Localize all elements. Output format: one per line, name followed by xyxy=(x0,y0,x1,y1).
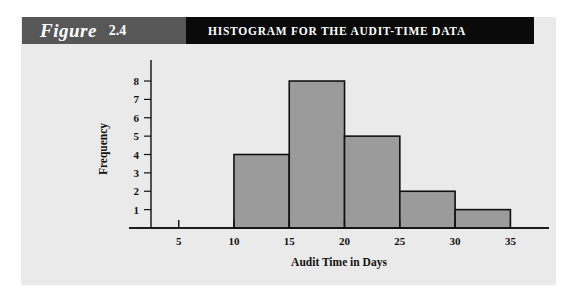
x-axis-tick-label: 35 xyxy=(505,235,516,247)
x-axis-title: Audit Time in Days xyxy=(291,256,387,269)
histogram-bar xyxy=(289,81,344,228)
histogram-svg: 123456785101520253035Audit Time in DaysF… xyxy=(21,52,556,284)
figure-number-tag: Figure 2.4 xyxy=(22,17,186,44)
histogram-bar xyxy=(234,155,289,228)
y-axis-tick-label: 2 xyxy=(134,185,140,197)
figure-root: Figure 2.4 HISTOGRAM FOR THE AUDIT-TIME … xyxy=(0,0,576,304)
histogram-bar xyxy=(455,210,510,228)
x-axis-tick-label: 20 xyxy=(339,235,351,247)
x-axis-tick-label: 5 xyxy=(176,235,182,247)
y-axis-tick-label: 3 xyxy=(134,167,140,179)
x-axis-tick-label: 25 xyxy=(394,235,406,247)
x-axis-tick-label: 30 xyxy=(450,235,462,247)
histogram-bar xyxy=(345,136,400,228)
figure-header: Figure 2.4 HISTOGRAM FOR THE AUDIT-TIME … xyxy=(22,17,534,44)
histogram-bar xyxy=(400,191,455,228)
x-axis-tick-label: 15 xyxy=(284,235,296,247)
figure-title-text: HISTOGRAM FOR THE AUDIT-TIME DATA xyxy=(208,25,466,37)
y-axis-tick-label: 1 xyxy=(134,204,140,216)
y-axis-tick-label: 6 xyxy=(134,112,140,124)
figure-word-label: Figure xyxy=(40,20,97,42)
histogram-plot: 123456785101520253035Audit Time in DaysF… xyxy=(21,52,556,284)
y-axis-tick-label: 7 xyxy=(134,93,140,105)
y-axis-title: Frequency xyxy=(97,123,110,175)
figure-number-label: 2.4 xyxy=(109,23,127,39)
x-axis-tick-label: 10 xyxy=(228,235,240,247)
figure-title-bar: HISTOGRAM FOR THE AUDIT-TIME DATA xyxy=(186,17,534,44)
y-axis-tick-label: 5 xyxy=(134,130,140,142)
y-axis-tick-label: 4 xyxy=(134,149,140,161)
y-axis-tick-label: 8 xyxy=(134,75,140,87)
chart-drawing-layer: 123456785101520253035Audit Time in DaysF… xyxy=(97,60,549,269)
